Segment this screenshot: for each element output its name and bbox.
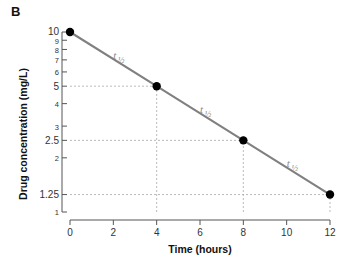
y-axis-ticks: 1098765432.521.251 (40, 26, 67, 217)
half-life-annotations: t½t½t½ (113, 49, 298, 174)
y-tick-label: 8 (55, 46, 59, 55)
x-tick-label: 12 (324, 227, 336, 238)
half-life-symbol: t (200, 103, 204, 115)
half-life-subscript: ½ (291, 163, 298, 173)
semilog-decay-chart: 1098765432.521.251 024681012 t½t½t½ (0, 0, 350, 264)
half-life-symbol: t (113, 49, 117, 61)
data-point (239, 136, 247, 144)
y-tick-label: 3 (55, 123, 59, 132)
half-life-annotation: t½ (200, 103, 212, 120)
half-life-subscript: ½ (118, 55, 125, 65)
y-tick-label: 1.25 (40, 189, 60, 200)
x-tick-label: 0 (67, 227, 73, 238)
data-point (152, 82, 160, 90)
y-tick-label: 1 (55, 208, 59, 217)
data-point (326, 190, 334, 198)
half-life-symbol: t (287, 157, 291, 169)
x-tick-label: 8 (241, 227, 247, 238)
y-tick-label: 2 (55, 154, 59, 163)
y-tick-label: 6 (55, 68, 59, 77)
x-axis-ticks: 024681012 (67, 220, 336, 238)
y-tick-label: 9 (55, 37, 59, 46)
x-tick-label: 6 (197, 227, 203, 238)
axes-group (62, 32, 330, 220)
x-tick-label: 4 (154, 227, 160, 238)
y-tick-label: 5 (53, 81, 59, 92)
y-tick-label: 7 (55, 56, 59, 65)
half-life-annotation: t½ (113, 49, 125, 66)
half-life-subscript: ½ (205, 109, 212, 119)
x-tick-label: 10 (281, 227, 293, 238)
data-point (66, 28, 74, 36)
y-tick-label: 4 (55, 100, 59, 109)
y-tick-label: 2.5 (45, 135, 59, 146)
half-life-annotation: t½ (287, 157, 299, 174)
figure-panel-b: B Drug concentration (mg/L) Time (hours)… (0, 0, 350, 264)
x-tick-label: 2 (111, 227, 117, 238)
